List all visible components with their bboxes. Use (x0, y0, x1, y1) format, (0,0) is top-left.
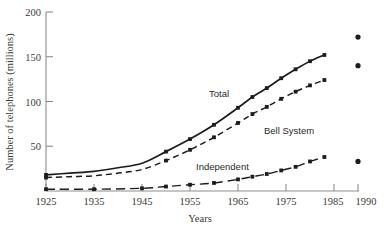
data-point-marker (294, 67, 298, 71)
data-point-marker (308, 160, 312, 164)
data-point-marker (188, 137, 192, 141)
series-total (44, 53, 326, 177)
data-point-marker (164, 185, 168, 189)
total-line (46, 55, 324, 175)
y-tick-label-50: 50 (31, 141, 42, 152)
projected-point (355, 63, 360, 68)
independent-line (46, 157, 324, 189)
data-point-marker (92, 187, 96, 191)
projected-point (355, 159, 360, 164)
x-tick-label-1985: 1985 (323, 196, 344, 207)
x-tick-label-1955: 1955 (180, 196, 201, 207)
x-axis-title: Years (188, 213, 211, 224)
data-point-marker (308, 59, 312, 63)
y-axis-title: Number of telephones (millions) (4, 33, 16, 171)
series-annotations: Total Bell System Independent (196, 88, 314, 172)
data-point-marker (212, 181, 216, 185)
data-point-marker (294, 165, 298, 169)
x-axis-group: 1925 1935 1945 1955 1965 1975 1985 1990 … (36, 184, 377, 224)
data-point-marker (44, 176, 48, 180)
chart-canvas: 200 150 100 50 Number of telephones (mil… (0, 0, 387, 243)
x-tick-label-1965: 1965 (228, 196, 249, 207)
data-point-marker (164, 150, 168, 154)
data-point-marker (251, 175, 255, 179)
series-independent (44, 155, 326, 191)
y-tick-label-200: 200 (25, 7, 41, 18)
data-point-marker (236, 121, 240, 125)
data-point-marker (323, 78, 327, 82)
label-independent: Independent (196, 161, 249, 172)
label-bell-system: Bell System (264, 125, 314, 136)
data-point-marker (265, 172, 269, 176)
data-point-marker (188, 183, 192, 187)
x-tick-label-1945: 1945 (132, 196, 153, 207)
telephone-growth-chart: 200 150 100 50 Number of telephones (mil… (0, 0, 387, 243)
x-tick-label-1925: 1925 (36, 196, 57, 207)
data-point-marker (164, 159, 168, 163)
y-tick-label-100: 100 (25, 97, 41, 108)
data-point-marker (212, 123, 216, 127)
data-point-marker (236, 106, 240, 110)
data-point-marker (251, 95, 255, 99)
data-point-marker (323, 155, 327, 159)
x-tick-label-1990: 1990 (356, 196, 377, 207)
y-axis-group: 200 150 100 50 Number of telephones (mil… (4, 7, 53, 191)
data-point-marker (323, 53, 327, 57)
data-point-marker (212, 135, 216, 139)
data-point-marker (265, 105, 269, 109)
x-tick-label-1975: 1975 (276, 196, 297, 207)
projected-point (355, 34, 360, 39)
data-point-marker (279, 97, 283, 101)
data-point-marker (188, 148, 192, 152)
data-point-marker (140, 186, 144, 190)
y-tick-label-150: 150 (25, 52, 41, 63)
data-point-marker (44, 187, 48, 191)
label-total: Total (209, 88, 229, 99)
x-tick-label-1935: 1935 (84, 196, 105, 207)
data-point-marker (279, 169, 283, 173)
data-point-marker (251, 112, 255, 116)
data-point-marker (236, 177, 240, 181)
data-point-marker (308, 83, 312, 87)
data-point-marker (265, 86, 269, 90)
independent-markers (44, 155, 326, 191)
projected-points-group (355, 34, 360, 164)
total-markers (44, 53, 326, 177)
data-point-marker (294, 90, 298, 94)
data-point-marker (279, 76, 283, 80)
